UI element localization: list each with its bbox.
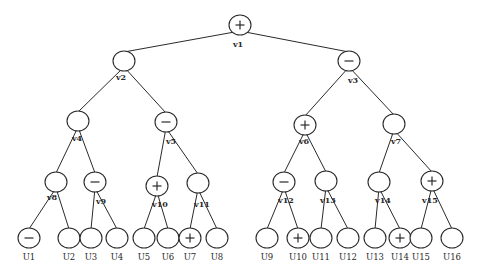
edge-v2-v5 bbox=[124, 67, 166, 113]
node-U3 bbox=[80, 228, 102, 248]
edge-v15-U16 bbox=[432, 187, 452, 229]
node-v6 bbox=[294, 115, 316, 135]
node-label-v14: v14 bbox=[374, 195, 391, 205]
node-label-v10: v10 bbox=[151, 199, 168, 209]
leaf-label-U12: U12 bbox=[339, 252, 357, 262]
node-U4 bbox=[106, 228, 128, 248]
node-circle bbox=[45, 172, 67, 192]
node-label-v13: v13 bbox=[319, 195, 336, 205]
leaf-label-U7: U7 bbox=[184, 252, 197, 262]
node-circle bbox=[368, 172, 390, 192]
node-circle bbox=[206, 228, 228, 248]
node-label-v9: v9 bbox=[95, 196, 107, 206]
node-U5 bbox=[133, 228, 155, 248]
node-U6 bbox=[157, 228, 179, 248]
node-label-v5: v5 bbox=[165, 136, 176, 146]
node-v2 bbox=[113, 51, 135, 71]
node-U8 bbox=[206, 228, 228, 248]
node-U11 bbox=[310, 228, 332, 248]
edge-v5-v10 bbox=[157, 128, 166, 177]
edge-v9-U3 bbox=[91, 188, 95, 229]
node-U16 bbox=[441, 228, 463, 248]
leaf-label-U11: U11 bbox=[312, 252, 330, 262]
node-v7 bbox=[383, 114, 405, 134]
tree-nodes bbox=[18, 15, 463, 248]
node-circle bbox=[310, 228, 332, 248]
leaf-label-U16: U16 bbox=[443, 252, 461, 262]
node-circle bbox=[80, 228, 102, 248]
node-v1 bbox=[229, 15, 251, 35]
node-U10 bbox=[287, 228, 309, 248]
edge-v11-U7 bbox=[190, 189, 198, 229]
leaf-label-U13: U13 bbox=[366, 252, 384, 262]
leaf-label-U6: U6 bbox=[162, 252, 175, 262]
edge-v10-U6 bbox=[157, 192, 168, 229]
node-U15 bbox=[410, 228, 432, 248]
node-label-v6: v6 bbox=[298, 136, 310, 146]
edge-v5-v11 bbox=[166, 128, 198, 174]
node-label-v15: v15 bbox=[421, 195, 438, 205]
node-circle bbox=[106, 228, 128, 248]
node-U9 bbox=[256, 228, 278, 248]
node-circle bbox=[383, 114, 405, 134]
tree-diagram: v1v2v3v4v5v6v7v8v9v10v11v12v13v14v15U1U2… bbox=[0, 0, 479, 279]
node-label-v4: v4 bbox=[71, 133, 83, 143]
node-v4 bbox=[67, 111, 89, 131]
node-U12 bbox=[337, 228, 359, 248]
leaf-label-U14: U14 bbox=[391, 252, 409, 262]
node-circle bbox=[58, 228, 80, 248]
node-v14 bbox=[368, 172, 390, 192]
node-v11 bbox=[187, 173, 209, 193]
node-circle bbox=[410, 228, 432, 248]
leaf-label-U8: U8 bbox=[211, 252, 224, 262]
leaf-label-U3: U3 bbox=[85, 252, 98, 262]
leaf-label-U2: U2 bbox=[63, 252, 76, 262]
node-circle bbox=[315, 171, 337, 191]
node-circle bbox=[187, 173, 209, 193]
node-U1 bbox=[18, 228, 40, 248]
node-U14 bbox=[389, 228, 411, 248]
node-v9 bbox=[84, 172, 106, 192]
edge-v8-U2 bbox=[56, 188, 69, 229]
edge-v3-v6 bbox=[305, 67, 349, 116]
edge-v11-U8 bbox=[198, 189, 217, 229]
leaf-label-U5: U5 bbox=[138, 252, 151, 262]
edge-v10-U5 bbox=[144, 192, 157, 229]
edge-v1-v3 bbox=[240, 31, 349, 52]
node-v8 bbox=[45, 172, 67, 192]
edge-v1-v2 bbox=[124, 31, 240, 52]
node-label-v1: v1 bbox=[232, 39, 243, 49]
leaf-label-U4: U4 bbox=[111, 252, 124, 262]
node-circle bbox=[133, 228, 155, 248]
leaf-label-U9: U9 bbox=[261, 252, 274, 262]
node-circle bbox=[113, 51, 135, 71]
node-label-v8: v8 bbox=[46, 192, 58, 202]
node-U7 bbox=[179, 228, 201, 248]
edge-v13-U12 bbox=[326, 187, 348, 229]
node-v12 bbox=[273, 172, 295, 192]
node-label-v12: v12 bbox=[277, 195, 294, 205]
node-circle bbox=[157, 228, 179, 248]
node-v15 bbox=[421, 171, 443, 191]
node-label-v2: v2 bbox=[115, 72, 126, 82]
node-v3 bbox=[338, 51, 360, 71]
node-circle bbox=[67, 111, 89, 131]
leaf-label-U10: U10 bbox=[289, 252, 307, 262]
leaf-label-U15: U15 bbox=[412, 252, 430, 262]
node-label-v7: v7 bbox=[390, 136, 401, 146]
node-v5 bbox=[155, 112, 177, 132]
node-v10 bbox=[146, 176, 168, 196]
node-U13 bbox=[364, 228, 386, 248]
node-circle bbox=[337, 228, 359, 248]
edge-v9-U4 bbox=[95, 188, 117, 229]
node-U2 bbox=[58, 228, 80, 248]
node-label-v3: v3 bbox=[347, 75, 359, 85]
node-circle bbox=[256, 228, 278, 248]
node-label-v11: v11 bbox=[193, 199, 210, 209]
leaf-label-U1: U1 bbox=[23, 252, 36, 262]
node-circle bbox=[441, 228, 463, 248]
node-v13 bbox=[315, 171, 337, 191]
node-circle bbox=[364, 228, 386, 248]
edge-v13-U11 bbox=[321, 187, 326, 229]
edge-v15-U15 bbox=[421, 187, 432, 229]
